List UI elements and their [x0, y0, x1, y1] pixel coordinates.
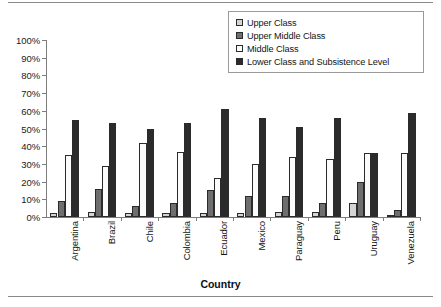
bar: [371, 153, 378, 217]
bar: [177, 152, 184, 217]
bar: [162, 213, 169, 217]
bar: [289, 157, 296, 217]
bar-group: [158, 40, 195, 217]
bar: [364, 153, 371, 217]
bar: [139, 143, 146, 217]
bar: [296, 127, 303, 217]
bar-group: [345, 40, 382, 217]
y-axis-tick-label: 60%: [21, 105, 40, 116]
bar: [109, 123, 116, 217]
bar: [275, 212, 282, 217]
x-axis-separator: [233, 217, 234, 221]
legend-label-upper-middle-class: Upper Middle Class: [247, 31, 325, 41]
bar: [282, 196, 289, 217]
legend-swatch-upper-class: [236, 19, 243, 26]
bar-group: [308, 40, 345, 217]
bar: [312, 212, 319, 217]
legend-label-upper-class: Upper Class: [247, 18, 296, 28]
bar-group: [83, 40, 120, 217]
bar-group: [196, 40, 233, 217]
bar: [221, 109, 228, 217]
bar: [334, 118, 341, 217]
bar: [65, 155, 72, 217]
x-axis-separator: [158, 217, 159, 221]
x-axis-category-label: Peru: [331, 221, 342, 241]
x-axis-separator: [308, 217, 309, 221]
x-axis-category-label: Mexico: [256, 221, 267, 251]
bar: [50, 213, 57, 217]
legend-item-upper-class: Upper Class: [236, 16, 418, 29]
bar-group: [270, 40, 307, 217]
bar-group: [121, 40, 158, 217]
bar: [58, 201, 65, 217]
x-axis-category-label: Ecuador: [218, 221, 229, 256]
bar: [147, 129, 154, 218]
page-rule-top: [8, 2, 433, 3]
bar-group: [46, 40, 83, 217]
x-axis-separator: [345, 217, 346, 221]
y-axis-tick-label: 0%: [26, 212, 40, 223]
bar: [125, 213, 132, 217]
y-axis-tick: [42, 217, 47, 218]
bar: [245, 196, 252, 217]
bar: [357, 182, 364, 217]
x-axis-category-label: Paraguay: [293, 221, 304, 261]
bar: [319, 203, 326, 217]
bar: [259, 118, 266, 217]
bar-group: [383, 40, 420, 217]
y-axis-tick-label: 30%: [21, 158, 40, 169]
bar: [237, 213, 244, 217]
bar: [88, 212, 95, 217]
bar: [214, 178, 221, 217]
y-axis-tick-label: 50%: [21, 123, 40, 134]
bar: [72, 120, 79, 217]
bar: [394, 210, 401, 217]
y-axis-tick-label: 100%: [16, 35, 40, 46]
y-axis-tick-label: 40%: [21, 141, 40, 152]
y-axis-tick-label: 90%: [21, 52, 40, 63]
plot-area: 0%10%20%30%40%50%60%70%80%90%100%: [46, 40, 420, 217]
bar: [132, 206, 139, 217]
x-axis-title: Country: [0, 278, 441, 290]
x-axis-category-label: Argentina: [69, 221, 80, 261]
y-axis-tick-label: 70%: [21, 88, 40, 99]
bar: [387, 215, 394, 217]
legend-swatch-upper-middle-class: [236, 32, 243, 39]
x-axis-separator: [420, 217, 421, 221]
y-axis-tick-label: 80%: [21, 70, 40, 81]
bar: [170, 203, 177, 217]
x-axis-separator: [83, 217, 84, 221]
bar: [102, 166, 109, 217]
y-axis-tick-label: 20%: [21, 176, 40, 187]
bar: [184, 123, 191, 217]
bar: [207, 190, 214, 217]
x-axis-category-label: Chile: [144, 221, 155, 242]
x-axis-category-label: Brazil: [106, 221, 117, 244]
x-axis-separator: [383, 217, 384, 221]
bar: [349, 203, 356, 217]
x-axis-category-label: Venezuela: [405, 221, 416, 264]
bar-chart-figure: Upper Class Upper Middle Class Middle Cl…: [0, 0, 441, 307]
x-axis-separator: [121, 217, 122, 221]
x-axis-category-label: Uruguay: [368, 221, 379, 256]
bar: [200, 213, 207, 217]
x-axis-separator: [270, 217, 271, 221]
x-axis-separator: [196, 217, 197, 221]
y-axis-tick-label: 10%: [21, 194, 40, 205]
bar: [408, 113, 415, 217]
bar-group: [233, 40, 270, 217]
bar: [252, 164, 259, 217]
x-axis-category-label: Colombia: [181, 221, 192, 260]
bar: [326, 159, 333, 217]
bar: [401, 153, 408, 217]
bar: [95, 189, 102, 217]
page-rule-bottom: [8, 296, 433, 297]
